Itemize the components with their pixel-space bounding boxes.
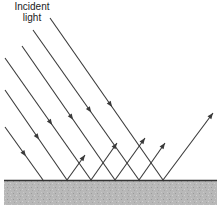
reflected-ray: [163, 113, 213, 180]
arrowhead-icon: [107, 101, 112, 107]
reflected-ray: [91, 143, 117, 180]
reflected-ray: [115, 138, 145, 180]
arrowhead-icon: [34, 133, 39, 139]
arrowhead-icon: [20, 150, 25, 156]
rays-svg: [0, 0, 219, 209]
reflected-ray: [139, 143, 165, 180]
arrowhead-icon: [80, 155, 85, 161]
incident-ray: [33, 30, 139, 180]
arrowhead-icon: [47, 119, 52, 125]
reflection-diagram: Incident light: [0, 0, 219, 209]
arrowhead-icon: [140, 138, 145, 144]
incident-ray: [50, 18, 163, 180]
arrowhead-icon: [68, 113, 73, 119]
incident-ray: [22, 46, 115, 180]
incident-ray: [5, 58, 91, 180]
ground: [4, 181, 217, 205]
arrowhead-icon: [160, 143, 165, 149]
arrowhead-icon: [86, 106, 91, 112]
arrowhead-icon: [207, 113, 213, 119]
